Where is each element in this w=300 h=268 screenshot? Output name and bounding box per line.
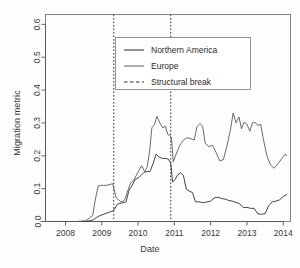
x-tick-label: 2012 xyxy=(201,228,220,238)
x-tick-label: 2014 xyxy=(274,228,293,238)
y-tick-label: 0.3 xyxy=(33,117,43,129)
x-tick-label: 2013 xyxy=(237,228,256,238)
chart-legend: Northern AmericaEuropeStructural break xyxy=(116,38,251,90)
series-line-europe xyxy=(47,113,287,221)
plot-canvas: 0.00.10.20.30.40.50.6 200820092010201120… xyxy=(0,0,300,268)
y-axis-title: Migration metric xyxy=(12,73,22,173)
legend-label-structural-break: Structural break xyxy=(151,77,212,87)
x-axis: 2008200920102011201220132014 xyxy=(56,222,293,238)
x-axis-title: Date xyxy=(0,244,300,254)
x-tick-label: 2008 xyxy=(56,228,75,238)
data-series-group xyxy=(47,113,287,221)
migration-metric-chart: 0.00.10.20.30.40.50.6 200820092010201120… xyxy=(0,0,300,268)
x-tick-label: 2010 xyxy=(129,228,148,238)
y-tick-label: 0.6 xyxy=(33,18,43,30)
y-tick-label: 0.1 xyxy=(33,182,43,194)
legend-label-europe: Europe xyxy=(151,61,179,71)
y-tick-label: 0.4 xyxy=(33,84,43,96)
y-tick-label: 0.0 xyxy=(33,215,43,227)
y-axis: 0.00.10.20.30.40.50.6 xyxy=(33,18,46,227)
x-tick-label: 2011 xyxy=(165,228,184,238)
series-line-northern-america xyxy=(47,154,287,221)
y-tick-label: 0.5 xyxy=(33,51,43,63)
y-tick-label: 0.2 xyxy=(33,150,43,162)
legend-label-northern-america: Northern America xyxy=(151,45,217,55)
x-tick-label: 2009 xyxy=(92,228,111,238)
